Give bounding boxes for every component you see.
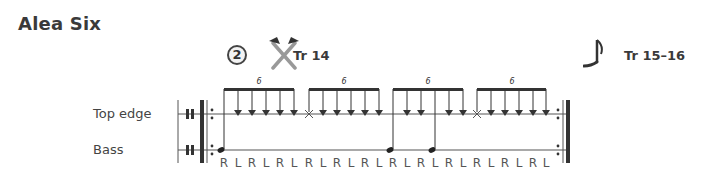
sticking-letter: R: [414, 156, 428, 170]
sticking-letter: R: [273, 156, 287, 170]
svg-text:6: 6: [425, 77, 430, 86]
sticking-letter: R: [470, 156, 484, 170]
svg-text:6: 6: [509, 77, 514, 86]
notation-staff: 6 6 6 6: [0, 0, 707, 180]
sticking-letter: R: [330, 156, 344, 170]
sticking-letter: L: [484, 156, 498, 170]
sticking-letter: R: [526, 156, 540, 170]
sticking-letter: L: [231, 156, 245, 170]
sticking-letter: R: [302, 156, 316, 170]
sticking-letter: R: [442, 156, 456, 170]
sticking-letter: L: [316, 156, 330, 170]
sticking-letter: L: [539, 156, 553, 170]
sticking-letter: L: [287, 156, 301, 170]
sticking-letter: R: [217, 156, 231, 170]
sticking-letter: R: [498, 156, 512, 170]
svg-text:6: 6: [256, 77, 261, 86]
sticking-letter: R: [386, 156, 400, 170]
sticking-letter: L: [428, 156, 442, 170]
sticking-letter: R: [245, 156, 259, 170]
sticking-letter: L: [400, 156, 414, 170]
sticking-letter: L: [372, 156, 386, 170]
sticking-letter: L: [512, 156, 526, 170]
sticking-letter: L: [456, 156, 470, 170]
svg-text:6: 6: [341, 77, 346, 86]
sticking-letter: L: [344, 156, 358, 170]
sticking-letter: L: [259, 156, 273, 170]
sticking-letter: R: [358, 156, 372, 170]
